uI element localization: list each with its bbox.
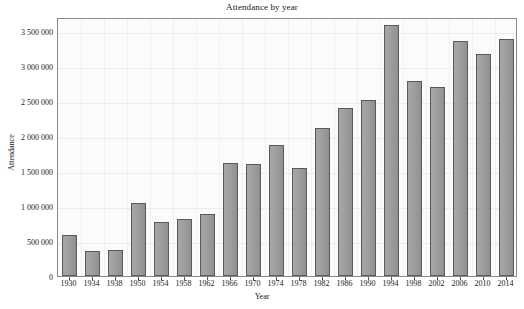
grid-line-vertical xyxy=(495,19,496,276)
grid-line-vertical xyxy=(334,19,335,276)
bar xyxy=(246,164,260,276)
x-axis-tick-label: 1998 xyxy=(406,279,422,288)
y-axis-tick-label: 1 500 000 xyxy=(21,168,53,177)
grid-line-vertical xyxy=(311,19,312,276)
bar xyxy=(62,235,76,276)
grid-line-vertical xyxy=(380,19,381,276)
x-axis-tick-label: 1938 xyxy=(107,279,123,288)
bar xyxy=(430,87,444,276)
y-axis-tick-label: 3 000 000 xyxy=(21,63,53,72)
plot-area xyxy=(57,18,517,277)
grid-line-vertical xyxy=(127,19,128,276)
grid-line-vertical xyxy=(81,19,82,276)
x-axis-tick-label: 2010 xyxy=(475,279,491,288)
bar xyxy=(407,81,421,276)
grid-line-vertical xyxy=(242,19,243,276)
bar xyxy=(223,163,237,276)
x-axis-tick-label: 1966 xyxy=(222,279,238,288)
x-axis-tick-label: 1954 xyxy=(153,279,169,288)
bar xyxy=(131,203,145,276)
bar xyxy=(476,54,490,276)
bar xyxy=(200,214,214,276)
x-axis-tick-label: 1974 xyxy=(268,279,284,288)
y-axis-tick-label: 0 xyxy=(49,273,53,282)
grid-line-vertical xyxy=(219,19,220,276)
x-axis-tick-label: 1990 xyxy=(360,279,376,288)
grid-line-vertical xyxy=(173,19,174,276)
grid-line-vertical xyxy=(449,19,450,276)
x-axis-tick-label: 1986 xyxy=(337,279,353,288)
y-axis-tick-label: 3 500 000 xyxy=(21,28,53,37)
bar-chart: Attendance by year 0500 0001 000 0001 50… xyxy=(0,0,524,309)
x-axis-tick-label: 1930 xyxy=(61,279,77,288)
x-axis-title: Year xyxy=(0,292,524,301)
y-axis-title: Attendance xyxy=(7,118,16,188)
grid-line-vertical xyxy=(472,19,473,276)
y-axis-tick-label: 2 000 000 xyxy=(21,133,53,142)
bar xyxy=(85,251,99,276)
grid-line-vertical xyxy=(426,19,427,276)
chart-title: Attendance by year xyxy=(0,2,524,12)
x-axis-tick-label: 1950 xyxy=(130,279,146,288)
bar xyxy=(177,219,191,276)
x-axis-tick-label: 1978 xyxy=(291,279,307,288)
grid-line-vertical xyxy=(288,19,289,276)
x-axis-tick-label: 1982 xyxy=(314,279,330,288)
grid-line-vertical xyxy=(357,19,358,276)
x-axis-tick-label: 1994 xyxy=(383,279,399,288)
x-axis-tick-label: 2002 xyxy=(429,279,445,288)
bar xyxy=(361,100,375,276)
bar xyxy=(108,250,122,276)
bar xyxy=(499,39,513,276)
bar xyxy=(269,145,283,276)
grid-line-vertical xyxy=(196,19,197,276)
bar xyxy=(315,128,329,276)
y-axis-tick-label: 1 000 000 xyxy=(21,203,53,212)
x-axis-tick-label: 2006 xyxy=(452,279,468,288)
grid-line-vertical xyxy=(104,19,105,276)
bar xyxy=(453,41,467,276)
grid-line-vertical xyxy=(265,19,266,276)
bar xyxy=(154,222,168,276)
x-axis-tick-label: 1970 xyxy=(245,279,261,288)
x-axis-tick-label: 1958 xyxy=(176,279,192,288)
bar xyxy=(338,108,352,276)
bar xyxy=(292,168,306,276)
x-axis-tick-label: 2014 xyxy=(498,279,514,288)
y-axis-tick-label: 500 000 xyxy=(27,238,53,247)
grid-line-vertical xyxy=(403,19,404,276)
grid-line-vertical xyxy=(150,19,151,276)
y-axis-tick-label: 2 500 000 xyxy=(21,98,53,107)
bar xyxy=(384,25,398,276)
x-axis-tick-label: 1934 xyxy=(84,279,100,288)
x-axis-tick-label: 1962 xyxy=(199,279,215,288)
